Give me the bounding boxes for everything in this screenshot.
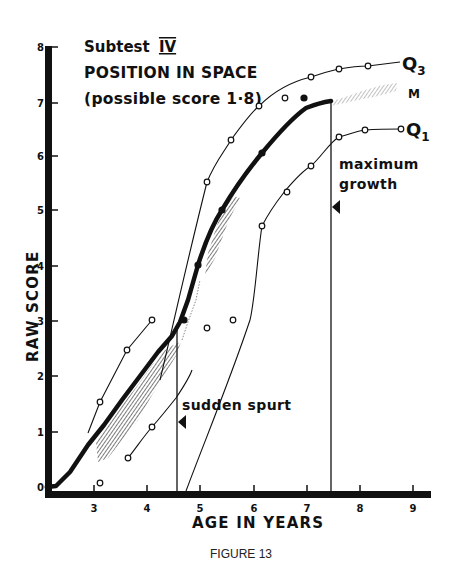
- annotation-maximum-growth: maximum growth: [332, 156, 419, 214]
- x-tick-7: 7: [304, 503, 311, 514]
- y-axis: 8 7 6 5 4 3 2 1 0 RAW SCORE: [24, 42, 58, 498]
- x-tick-3: 3: [91, 503, 98, 514]
- maximum-label: maximum: [339, 156, 419, 172]
- y-ticks: [52, 47, 58, 432]
- median-label: M: [408, 87, 420, 101]
- chart-subtitle: POSITION IN SPACE: [84, 64, 258, 82]
- arrow-left-icon: [332, 200, 340, 214]
- x-tick-6: 6: [251, 503, 258, 514]
- chart-note: (possible score 1·8): [84, 90, 262, 108]
- q3-label: Q3: [402, 53, 426, 78]
- y-tick-1: 1: [37, 427, 44, 438]
- y-tick-2: 2: [37, 371, 44, 382]
- chart-title: Subtest IV: [84, 38, 176, 56]
- x-tick-9: 9: [410, 503, 417, 514]
- median-markers: [45, 94, 308, 490]
- y-tick-8: 8: [37, 42, 44, 53]
- x-tick-8: 8: [357, 503, 364, 514]
- x-axis: 3 4 5 6 7 8 9 AGE IN YEARS: [45, 485, 431, 532]
- x-tick-labels: 3 4 5 6 7 8 9: [91, 503, 417, 514]
- q3-markers: [97, 63, 371, 405]
- x-ticks: [94, 485, 413, 491]
- growth-label: growth: [339, 176, 398, 192]
- x-axis-title: AGE IN YEARS: [192, 514, 324, 532]
- annotation-sudden-spurt: sudden spurt: [178, 397, 291, 429]
- y-tick-6: 6: [37, 151, 44, 162]
- y-tick-5: 5: [37, 205, 44, 216]
- growth-chart: 8 7 6 5 4 3 2 1 0 RAW SCORE 3 4 5 6 7: [0, 0, 453, 566]
- q3-series: [88, 62, 400, 433]
- sudden-spurt-label: sudden spurt: [182, 397, 291, 413]
- x-tick-4: 4: [144, 503, 151, 514]
- y-axis-title: RAW SCORE: [24, 251, 42, 362]
- y-tick-0: 0: [37, 482, 44, 493]
- median-band-upper: [330, 83, 397, 106]
- x-tick-5: 5: [197, 503, 204, 514]
- q1-label: Q1: [406, 119, 430, 144]
- chart-title-block: Subtest IV POSITION IN SPACE (possible s…: [84, 38, 262, 108]
- figure-caption: FIGURE 13: [210, 547, 272, 561]
- y-tick-7: 7: [37, 98, 44, 109]
- arrow-left-icon: [178, 415, 186, 429]
